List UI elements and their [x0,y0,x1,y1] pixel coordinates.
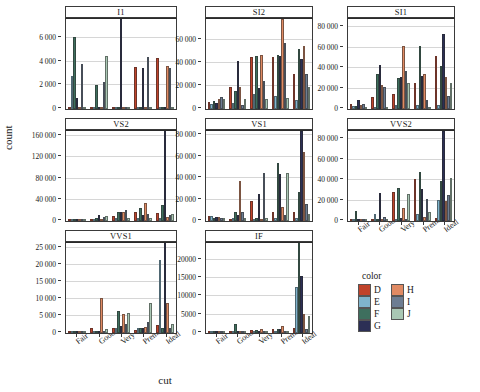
facet-strip-label-vvs1: VVS1 [65,230,177,242]
y-axis-ticks-vvs1: 05 00010 00015 00020 00025 000 [17,242,61,332]
bar-group-premium [132,243,154,333]
bar-D [134,67,137,109]
y-tick-label: 40 000 [175,173,196,182]
y-tick-label: 40 000 [35,194,56,203]
y-tick-label: 20 000 [175,80,196,89]
y-tick-mark [58,198,61,199]
bar-G [421,189,423,221]
bar-J [223,331,225,333]
bar-group-very-good [248,19,269,109]
bar-J [386,219,388,221]
legend-column-b: HIJ [391,284,414,332]
y-tick-label: 15 000 [35,277,56,286]
y-tick-label: 20 000 [317,83,338,92]
y-tick-mark [198,176,201,177]
bar-group-ideal [291,243,312,333]
facet-panel-if: IF [205,230,313,334]
bar-J [83,107,86,109]
y-axis-ticks-vs1: 020 00040 00060 00080 000 [157,130,201,220]
legend-swatch-j[interactable] [391,308,404,320]
bar-J [428,212,430,221]
facet-panel-si2: SI2 [205,6,313,110]
y-tick-label: 25 000 [35,243,56,252]
y-tick-mark [58,280,61,281]
y-tick-label: 0 [334,104,338,113]
y-tick-label: 60 000 [317,154,338,163]
y-tick-label: 120 000 [32,152,56,161]
bar-D [250,201,252,221]
legend-label-h: H [404,284,414,296]
y-tick-label: 60 000 [175,151,196,160]
y-tick-label: 80 000 [317,134,338,143]
y-tick-label: 80 000 [317,22,338,31]
bar-F [397,188,399,221]
bar-J [365,107,367,109]
y-tick-mark [340,158,343,159]
y-axis-ticks-si1: 020 00040 00060 00080 000 [299,18,343,108]
bar-group-premium [132,19,154,109]
y-tick-mark [198,313,201,314]
y-tick-label: 15000 [177,272,196,281]
plot-area-si1 [347,18,455,110]
y-tick-mark [340,137,343,138]
facet-strip-label-vs2: VS2 [65,118,177,130]
facet-strip-label-vs1: VS1 [205,118,313,130]
bar-group-premium [270,131,291,221]
bar-J [149,107,152,109]
facet-strip-label-si2: SI2 [205,6,313,18]
y-tick-label: 60 000 [175,34,196,43]
legend: color DEFG HIJ [358,271,468,332]
legend-swatch-i[interactable] [391,296,404,308]
bar-G [120,19,123,109]
bar-J [149,303,152,333]
legend-swatch-f[interactable] [358,308,371,320]
plot-area-if [205,242,313,334]
bar-J [407,194,409,221]
bar-J [386,107,388,109]
y-tick-mark [58,134,61,135]
x-axis-ticks-if: FairGoodVery GoodPremiumIdeal [205,334,313,374]
bar-J [286,173,288,221]
faceted-bar-chart-figure: count cut 02 0004 0006 000I1020 00040 00… [0,0,480,392]
bar-J [127,218,130,221]
legend-label-j: J [404,308,414,320]
bar-J [223,218,225,221]
y-axis-ticks-si2: 020 00040 00060 000 [157,18,201,108]
plot-area-si2 [205,18,313,110]
y-tick-mark [198,331,201,332]
bar-group-very-good [110,19,132,109]
y-tick-mark [340,87,343,88]
y-tick-mark [58,155,61,156]
y-tick-mark [58,263,61,264]
y-tick-label: 0 [334,216,338,225]
bar-group-ideal [433,19,454,109]
bar-D [435,56,437,109]
legend-label-d: D [371,284,381,296]
legend-swatch-d[interactable] [358,284,371,296]
bars-container [206,243,312,333]
legend-swatch-h[interactable] [391,284,404,296]
facet-strip-label-vvs2: VVS2 [347,118,455,130]
y-tick-label: 10 000 [35,294,56,303]
bar-G [258,194,260,221]
bar-J [105,216,108,221]
y-tick-mark [340,199,343,200]
y-axis-ticks-vvs2: 020 00040 00060 00080 000 [299,130,343,220]
bar-group-fair [66,131,88,221]
bar-group-fair [348,19,369,109]
plot-area-vs1 [205,130,313,222]
facet-strip-label-if: IF [205,230,313,242]
y-tick-mark [58,60,61,61]
y-tick-mark [198,61,201,62]
plot-area-vvs2 [347,130,455,222]
y-tick-label: 80 000 [175,130,196,139]
x-axis-title: cut [0,374,330,386]
facet-strip-label-i1: I1 [65,6,177,18]
y-tick-mark [198,198,201,199]
bar-group-good [88,131,110,221]
y-tick-mark [198,38,201,39]
bar-F [95,85,98,109]
legend-swatch-e[interactable] [358,296,371,308]
y-tick-mark [58,219,61,220]
legend-swatch-g[interactable] [358,320,371,332]
